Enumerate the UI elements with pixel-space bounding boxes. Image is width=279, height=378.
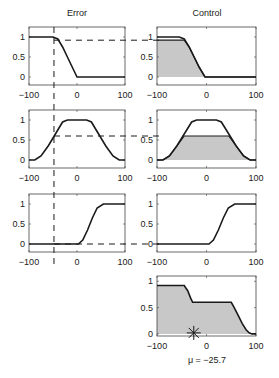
axes-frame — [29, 110, 125, 168]
xtick-label: 0 — [74, 257, 79, 267]
ytick-label: 1 — [148, 199, 153, 209]
ytick-label: 0.5 — [140, 52, 153, 62]
ytick-label: 0 — [148, 239, 153, 249]
xtick-label: 0 — [74, 90, 79, 100]
ytick-label: 1 — [148, 115, 153, 125]
xtick-label: 0 — [204, 341, 209, 351]
xtick-label: −100 — [147, 173, 167, 183]
centroid-label: μ = −25.7 — [188, 355, 226, 365]
ytick-label: 0 — [20, 155, 25, 165]
ytick-label: 0 — [20, 72, 25, 82]
ytick-label: 0 — [148, 155, 153, 165]
xtick-label: 0 — [204, 90, 209, 100]
panel-aggregate: 10.50−1000100 — [140, 276, 263, 351]
ytick-label: 0.5 — [12, 135, 25, 145]
xtick-label: −100 — [19, 257, 39, 267]
panel-control-row2: 10.50−1000100 — [140, 110, 263, 183]
ytick-label: 0.5 — [140, 219, 153, 229]
xtick-label: 100 — [248, 257, 263, 267]
clipped-area — [157, 40, 256, 77]
xtick-label: 0 — [204, 173, 209, 183]
clipped-area — [157, 285, 256, 333]
ytick-label: 0 — [20, 239, 25, 249]
ytick-label: 0.5 — [140, 303, 153, 313]
xtick-label: 100 — [117, 173, 132, 183]
xtick-label: −100 — [147, 257, 167, 267]
panel-error-row2: 10.50−1000100 — [12, 110, 132, 183]
xtick-label: 100 — [248, 341, 263, 351]
ytick-label: 1 — [20, 32, 25, 42]
ytick-label: 0 — [148, 72, 153, 82]
xtick-label: 0 — [204, 257, 209, 267]
xtick-label: 100 — [248, 90, 263, 100]
ytick-label: 0.5 — [12, 219, 25, 229]
ytick-label: 0.5 — [12, 52, 25, 62]
xtick-label: 100 — [117, 257, 132, 267]
membership-curve — [157, 204, 256, 244]
panel-control-row1: 10.50−1000100 — [140, 27, 263, 100]
column-title-error: Error — [67, 8, 87, 18]
ytick-label: 1 — [148, 32, 153, 42]
xtick-label: −100 — [19, 173, 39, 183]
ytick-label: 1 — [20, 199, 25, 209]
xtick-label: 0 — [74, 173, 79, 183]
ytick-label: 0 — [148, 329, 153, 339]
xtick-label: 100 — [117, 90, 132, 100]
xtick-label: 100 — [248, 173, 263, 183]
column-title-control: Control — [192, 8, 221, 18]
panel-control-row3: 10.50−1000100 — [140, 194, 263, 267]
xtick-label: −100 — [19, 90, 39, 100]
panel-error-row3: 10.50−1000100 — [12, 194, 132, 267]
ytick-label: 1 — [148, 276, 153, 286]
centroid-star-icon — [187, 326, 201, 340]
fuzzy-inference-figure: Error Control 10.50−100010010.50−1000100… — [0, 0, 279, 378]
ytick-label: 1 — [20, 115, 25, 125]
xtick-label: −100 — [147, 90, 167, 100]
membership-curve — [29, 204, 125, 244]
xtick-label: −100 — [147, 341, 167, 351]
clipped-area — [157, 136, 256, 160]
membership-curve — [29, 120, 125, 160]
membership-curve — [29, 37, 125, 77]
panel-error-row1: 10.50−1000100 — [12, 27, 132, 100]
